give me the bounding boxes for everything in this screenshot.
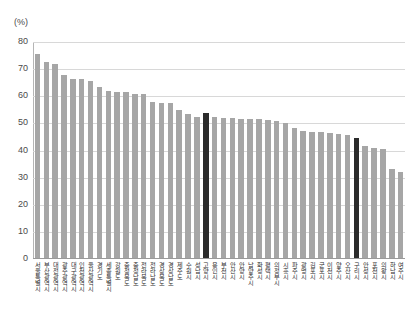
bar: [159, 103, 164, 259]
x-axis-label: 안성시: [362, 262, 368, 332]
x-axis-label: 전라남도: [149, 262, 155, 332]
bar-slot: [122, 42, 131, 259]
x-label-slot: 광명시: [299, 262, 308, 332]
bar: [212, 117, 217, 259]
bar: [300, 131, 305, 259]
x-label-slot: 오산시: [343, 262, 352, 332]
bar: [61, 75, 66, 259]
x-label-slot: 전라남도: [148, 262, 157, 332]
x-label-slot: 세종특별시: [104, 262, 113, 332]
x-label-slot: 군포시: [317, 262, 326, 332]
bar-slot: [113, 42, 122, 259]
x-label-slot: 부천시: [219, 262, 228, 332]
x-label-slot: 용인시: [210, 262, 219, 332]
bar-slot: [157, 42, 166, 259]
x-label-slot: 부산광역시: [42, 262, 51, 332]
bar: [141, 94, 146, 259]
x-label-slot: 경기도: [95, 262, 104, 332]
bar-slot: [379, 42, 388, 259]
bar-chart: (%) 80706050403020100 서울특별시부산광역시대전광역시광주광…: [0, 0, 412, 334]
x-label-slot: 안성시: [361, 262, 370, 332]
x-label-slot: 충청남도: [130, 262, 139, 332]
bar: [362, 146, 367, 259]
x-label-slot: 양주시: [334, 262, 343, 332]
y-tick-30: 30: [2, 172, 28, 182]
x-axis-label: 김포시: [309, 262, 315, 332]
bar: [283, 123, 288, 259]
x-axis-label: 경기도: [96, 262, 102, 332]
bar: [380, 149, 385, 259]
x-axis-label: 충청북도: [123, 262, 129, 332]
x-axis-label: 오산시: [344, 262, 350, 332]
x-label-slot: 김포시: [308, 262, 317, 332]
bar: [97, 87, 102, 259]
bar-slot: [51, 42, 60, 259]
bar: [106, 91, 111, 259]
bar: [309, 132, 314, 259]
bar-slot: [370, 42, 379, 259]
bar: [79, 79, 84, 259]
x-axis-label: 안양시: [238, 262, 244, 332]
bar-slot: [396, 42, 405, 259]
y-axis-tick-labels: 80706050403020100: [0, 42, 28, 259]
x-label-slot: 구리시: [352, 262, 361, 332]
bar-series: [33, 42, 405, 259]
y-tick-10: 10: [2, 226, 28, 236]
x-axis-category-labels: 서울특별시부산광역시대전광역시광주광역시대구광역시인천광역시울산광역시경기도세종…: [33, 262, 405, 332]
bar: [265, 120, 270, 259]
x-axis-label: 고양시: [203, 262, 209, 332]
y-tick-40: 40: [2, 145, 28, 155]
x-axis-label: 제주도: [176, 262, 182, 332]
bar: [176, 110, 181, 259]
bar-slot: [148, 42, 157, 259]
x-label-slot: 전라북도: [139, 262, 148, 332]
bar-slot: [130, 42, 139, 259]
x-label-slot: 대구광역시: [68, 262, 77, 332]
bar: [318, 132, 323, 259]
bar: [256, 119, 261, 259]
bar: [123, 92, 128, 259]
bar: [292, 128, 297, 259]
bar: [274, 121, 279, 259]
x-axis-label: 경상북도: [158, 262, 164, 332]
bar-slot: [299, 42, 308, 259]
x-axis-label: 평택시: [265, 262, 271, 332]
x-axis-label: 포천시: [371, 262, 377, 332]
bar-slot: [210, 42, 219, 259]
bar: [345, 135, 350, 259]
x-axis-label: 화성시: [256, 262, 262, 332]
x-label-slot: 여주시: [396, 262, 405, 332]
x-axis-label: 시흥시: [282, 262, 288, 332]
y-tick-50: 50: [2, 117, 28, 127]
bar-slot: [42, 42, 51, 259]
bar: [88, 81, 93, 259]
bar-slot: [317, 42, 326, 259]
x-axis-label: 울산광역시: [87, 262, 93, 332]
x-axis-label: 충청남도: [132, 262, 138, 332]
bar-slot: [68, 42, 77, 259]
bar-slot: [387, 42, 396, 259]
bar-slot: [263, 42, 272, 259]
bar: [238, 119, 243, 260]
x-label-slot: 울산광역시: [86, 262, 95, 332]
bar-slot: [104, 42, 113, 259]
x-label-slot: 안산시: [228, 262, 237, 332]
x-label-slot: 시흥시: [281, 262, 290, 332]
bar-slot: [184, 42, 193, 259]
x-axis-label: 광명시: [300, 262, 306, 332]
x-axis-label: 이천시: [327, 262, 333, 332]
x-axis-label: 전라북도: [141, 262, 147, 332]
x-label-slot: 안양시: [237, 262, 246, 332]
bar-slot: [352, 42, 361, 259]
y-tick-60: 60: [2, 90, 28, 100]
bar-slot: [237, 42, 246, 259]
x-axis-label: 부천시: [220, 262, 226, 332]
x-label-slot: 평택시: [263, 262, 272, 332]
bar: [44, 62, 49, 259]
x-axis-label: 용인시: [211, 262, 217, 332]
x-label-slot: 화성시: [254, 262, 263, 332]
bar-slot: [361, 42, 370, 259]
x-label-slot: 남양주시: [246, 262, 255, 332]
x-axis-label: 안산시: [229, 262, 235, 332]
x-label-slot: 포천시: [370, 262, 379, 332]
